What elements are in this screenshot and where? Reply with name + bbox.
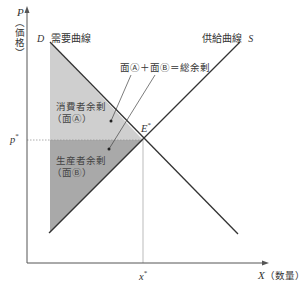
producer-surplus-tag: （面Ⓑ） bbox=[52, 167, 106, 179]
supply-name: 供給曲線 bbox=[202, 33, 242, 44]
consumer-surplus-tag: （面Ⓐ） bbox=[52, 113, 106, 125]
y-axis-arrow-icon bbox=[25, 6, 30, 13]
producer-surplus-label: 生産者余剰 （面Ⓑ） bbox=[56, 155, 106, 179]
consumer-surplus-label: 消費者余剰 （面Ⓐ） bbox=[56, 101, 106, 125]
consumer-surplus-name: 消費者余剰 bbox=[56, 101, 106, 113]
price-star-label: p* bbox=[10, 133, 19, 145]
leader-dot-b bbox=[108, 148, 111, 151]
x-axis-letter: X bbox=[258, 269, 265, 281]
producer-surplus-area bbox=[50, 140, 143, 233]
demand-name: 需要曲線 bbox=[51, 33, 91, 44]
quantity-star-label: x* bbox=[139, 270, 147, 282]
producer-surplus-name: 生産者余剰 bbox=[56, 155, 106, 167]
y-axis-sublabel: （価格） bbox=[14, 18, 24, 58]
equilibrium-label: E* bbox=[141, 122, 151, 134]
leader-dot-a bbox=[110, 120, 113, 123]
supply-label: 供給曲線 S bbox=[202, 34, 253, 44]
x-axis-arrow-icon bbox=[262, 261, 269, 266]
supply-letter: S bbox=[248, 33, 253, 44]
y-axis-label: P bbox=[17, 7, 24, 18]
x-axis-label: X（数量） bbox=[258, 270, 305, 281]
demand-label: D 需要曲線 bbox=[37, 34, 91, 44]
total-surplus-annotation: 面Ⓐ＋面Ⓑ＝総余剰 bbox=[120, 63, 210, 73]
demand-letter: D bbox=[37, 33, 44, 44]
x-axis-sublabel: （数量） bbox=[265, 270, 305, 281]
